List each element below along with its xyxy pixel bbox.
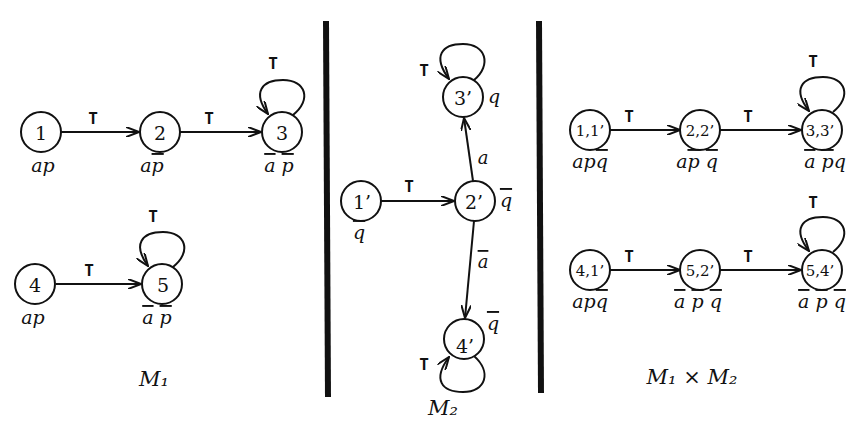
state-props: ap — [21, 306, 45, 328]
state-1: 1 ap — [21, 112, 61, 176]
panel-m2: T a a T T 1’ q 2’ q 3’ — [341, 44, 512, 420]
edge-label: T — [404, 177, 414, 196]
edge-2p-3p: a — [464, 118, 488, 181]
state-props: a p — [142, 306, 172, 328]
state-label: 3 — [276, 122, 288, 144]
state-props: a p — [264, 154, 294, 176]
state-label: 1 — [35, 122, 47, 144]
edge-label: T — [88, 109, 98, 128]
state-props: q — [500, 189, 512, 211]
edge-5-self: T — [140, 207, 184, 267]
edge-1-2: T — [61, 109, 139, 132]
state-props: q — [487, 312, 499, 334]
divider-left — [326, 21, 328, 397]
caption-m1: M₁ — [138, 367, 169, 391]
state-props: a p q — [674, 290, 722, 312]
state-label: 5,4’ — [806, 262, 835, 280]
state-label: 5,2’ — [686, 262, 715, 280]
state-label: 1,1’ — [576, 122, 605, 140]
state-label: 1’ — [353, 191, 371, 213]
edge-label: T — [808, 52, 818, 71]
edge-4p-self: T — [419, 355, 484, 392]
state-2-2p: 2,2’ ap q — [676, 110, 720, 172]
edge-label: T — [204, 109, 214, 128]
state-5: 5 a p — [142, 264, 182, 328]
state-label: 4,1’ — [576, 262, 605, 280]
panel-m1: T T T T T 1 ap 2 ap 3 — [15, 54, 304, 391]
state-label: 4 — [29, 274, 41, 296]
edge-label: T — [419, 61, 429, 80]
caption-product: M₁ × M₂ — [646, 365, 738, 389]
edge-33-self: T — [800, 52, 844, 112]
edge-label: T — [743, 247, 753, 266]
edge-2p-4p: a — [465, 221, 488, 318]
edge-3p-self: T — [419, 44, 484, 80]
edge-label: T — [808, 193, 818, 212]
state-label: 2 — [154, 122, 166, 144]
edge-label: T — [268, 54, 278, 73]
edge-54-self: T — [800, 193, 844, 252]
edge-label: T — [743, 107, 753, 126]
state-label: 5 — [157, 274, 169, 296]
edge-41-52: T — [610, 247, 680, 270]
state-label: 2,2’ — [686, 122, 715, 140]
edge-2-3: T — [180, 109, 261, 132]
state-2: 2 ap — [140, 112, 180, 176]
edge-label: T — [84, 261, 94, 280]
edge-label: T — [419, 355, 429, 374]
state-4: 4 ap — [15, 264, 55, 328]
edge-label: a — [478, 251, 489, 272]
state-props: apq — [572, 150, 608, 172]
state-label: 4’ — [456, 335, 474, 357]
state-2p: 2’ q — [455, 181, 512, 221]
state-4-1p: 4,1’ apq — [570, 250, 610, 312]
state-1p: 1’ q — [341, 181, 381, 243]
state-props: ap q — [676, 150, 718, 172]
panel-product: T T T T T T 1,1’ apq 2,2’ — [570, 52, 846, 389]
state-props: a pq — [804, 150, 846, 172]
caption-m2: M₂ — [427, 396, 458, 420]
state-4p: 4’ q — [444, 312, 499, 359]
state-label: 2’ — [465, 191, 483, 213]
state-props: ap — [31, 154, 55, 176]
edge-label: T — [148, 207, 158, 226]
edge-label: T — [624, 247, 634, 266]
state-5-4p: 5,4’ a p q — [798, 250, 846, 312]
state-props: q — [353, 221, 365, 243]
edge-4-5: T — [56, 261, 141, 284]
state-props: a p q — [798, 290, 846, 312]
state-5-2p: 5,2’ a p q — [674, 250, 722, 312]
state-label: 3’ — [454, 87, 472, 109]
edge-3-self: T — [260, 54, 304, 115]
edge-1p-2p: T — [381, 177, 454, 201]
edge-22-33: T — [720, 107, 801, 130]
state-props: ap — [140, 154, 164, 176]
edge-11-22: T — [610, 107, 680, 130]
edge-label: T — [624, 107, 634, 126]
edge-52-54: T — [720, 247, 801, 270]
diagram-canvas: T T T T T 1 ap 2 ap 3 — [0, 0, 866, 436]
state-props: apq — [572, 290, 608, 312]
state-3p: 3’ q — [443, 77, 500, 117]
divider-right — [539, 21, 541, 393]
edge-label: a — [478, 147, 489, 168]
state-props: q — [488, 85, 500, 107]
state-1-1p: 1,1’ apq — [570, 110, 610, 172]
state-label: 3,3’ — [806, 122, 835, 140]
state-3: 3 a p — [262, 112, 302, 176]
state-3-3p: 3,3’ a pq — [802, 110, 846, 172]
